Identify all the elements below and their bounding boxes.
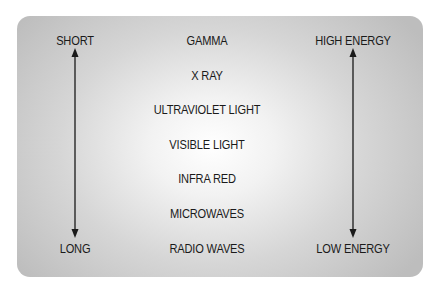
band-ultraviolet: ULTRAVIOLET LIGHT	[154, 102, 261, 117]
band-microwaves: MICROWAVES	[170, 206, 244, 221]
wavelength-long-label: LONG	[60, 241, 91, 256]
energy-arrow-down-head	[350, 229, 357, 238]
energy-low-label: LOW ENERGY	[316, 241, 389, 256]
energy-high-label: HIGH ENERGY	[315, 33, 391, 48]
band-visible-light: VISIBLE LIGHT	[169, 137, 244, 152]
band-gamma: GAMMA	[186, 33, 227, 48]
wavelength-arrow-down-head	[72, 229, 79, 238]
band-infra-red: INFRA RED	[178, 171, 236, 186]
energy-arrow-up-head	[350, 48, 357, 57]
energy-double-arrow	[348, 48, 358, 238]
band-radio-waves: RADIO WAVES	[169, 241, 244, 256]
wavelength-double-arrow	[70, 48, 80, 238]
band-x-ray: X RAY	[191, 68, 223, 83]
wavelength-short-label: SHORT	[56, 33, 94, 48]
wavelength-arrow-up-head	[72, 48, 79, 57]
